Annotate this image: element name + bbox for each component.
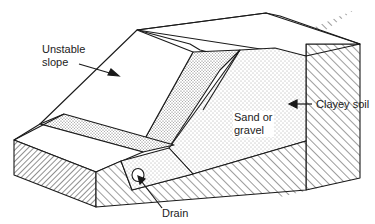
slope-diagram: [0, 0, 375, 224]
label-unstable-slope: Unstable slope: [42, 43, 85, 69]
label-sand-gravel: Sand or gravel: [233, 111, 274, 137]
label-drain: Drain: [162, 207, 188, 220]
label-clayey-soil: Clayey soil: [316, 98, 369, 111]
